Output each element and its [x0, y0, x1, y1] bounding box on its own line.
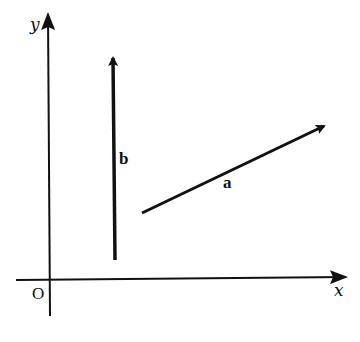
vector-b-label: b [119, 150, 128, 167]
vector-a [142, 126, 324, 213]
vector-diagram: y O x b a [0, 0, 360, 342]
diagram-svg [0, 0, 360, 342]
y-axis-label: y [30, 16, 40, 33]
x-axis [16, 277, 346, 280]
vector-b [113, 58, 115, 260]
x-axis-label: x [334, 282, 344, 299]
vector-a-label: a [223, 174, 232, 191]
origin-label: O [32, 285, 44, 302]
y-axis [48, 14, 50, 316]
